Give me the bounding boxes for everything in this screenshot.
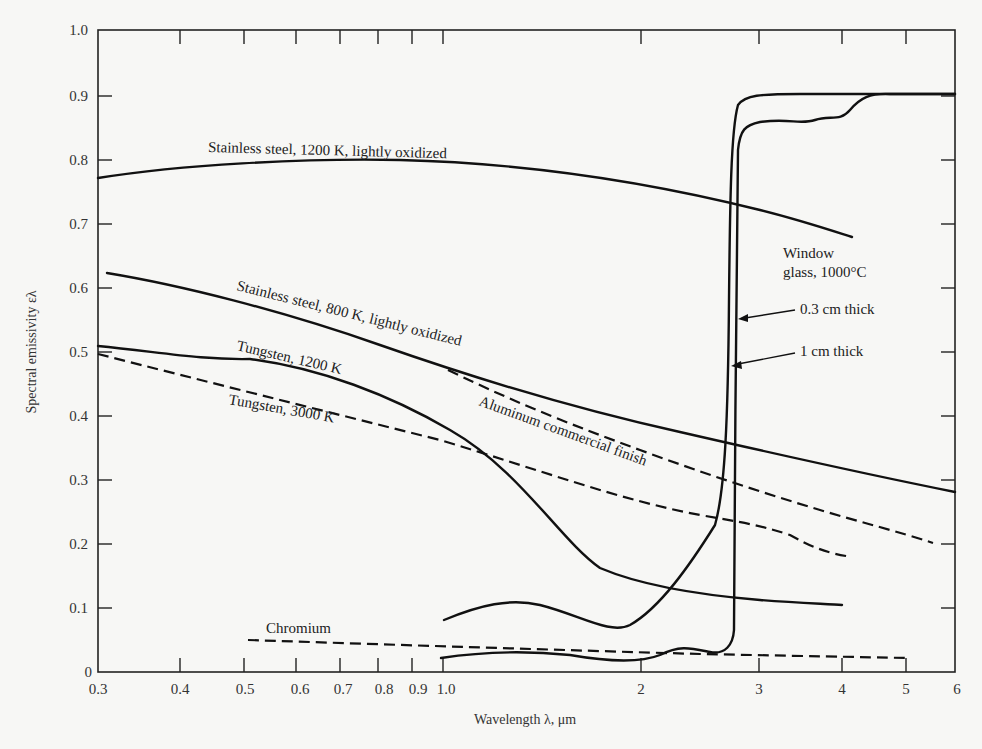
y-label-1.0: 1.0 bbox=[69, 22, 88, 38]
y-label-0.9: 0.9 bbox=[69, 88, 88, 104]
x-label-6: 6 bbox=[953, 681, 961, 697]
y-axis-title: Spectral emissivity ελ bbox=[24, 290, 39, 413]
label-tungsten-1200k: Tungsten, 1200 K bbox=[235, 337, 343, 377]
y-label-0.7: 0.7 bbox=[69, 216, 88, 232]
x-label-3: 3 bbox=[755, 681, 763, 697]
curve-tungsten-1200k bbox=[98, 346, 842, 605]
label-1cm-thick: 1 cm thick bbox=[800, 343, 864, 359]
y-label-0.3: 0.3 bbox=[69, 472, 88, 488]
x-axis-title: Wavelength λ, μm bbox=[474, 712, 576, 727]
y-label-0.5: 0.5 bbox=[69, 344, 88, 360]
curve-glass-0.3cm bbox=[444, 94, 955, 628]
label-aluminum: Aluminum commercial finish bbox=[477, 393, 650, 469]
x-label-1.0: 1.0 bbox=[437, 681, 456, 697]
x-label-0.4: 0.4 bbox=[171, 681, 190, 697]
curve-glass-1cm bbox=[441, 94, 955, 661]
y-tick-labels: 1.0 0.9 0.8 0.7 0.6 0.5 0.4 0.3 0.2 0.1 … bbox=[69, 22, 92, 680]
curve-aluminum bbox=[448, 370, 933, 543]
label-stainless-800k: Stainless steel, 800 K, lightly oxidized bbox=[235, 277, 464, 349]
label-stainless-1200k: Stainless steel, 1200 K, lightly oxidize… bbox=[208, 139, 448, 161]
curve-tungsten-3000k bbox=[98, 354, 852, 557]
x-label-5: 5 bbox=[902, 681, 910, 697]
y-label-0.6: 0.6 bbox=[69, 280, 88, 296]
x-label-0.8: 0.8 bbox=[375, 681, 394, 697]
label-window-glass-line2: glass, 1000°C bbox=[783, 264, 867, 280]
x-label-4: 4 bbox=[838, 681, 846, 697]
label-window-glass-line1: Window bbox=[783, 245, 834, 261]
x-label-0.3: 0.3 bbox=[89, 681, 108, 697]
x-label-0.6: 0.6 bbox=[291, 681, 310, 697]
x-label-0.7: 0.7 bbox=[334, 681, 353, 697]
y-label-0.4: 0.4 bbox=[69, 408, 88, 424]
label-chromium: Chromium bbox=[266, 620, 331, 636]
y-label-0.2: 0.2 bbox=[69, 536, 88, 552]
label-tungsten-3000k: Tungsten, 3000 K bbox=[227, 391, 336, 425]
y-label-0.1: 0.1 bbox=[69, 600, 88, 616]
x-label-0.9: 0.9 bbox=[409, 681, 428, 697]
x-label-2: 2 bbox=[637, 681, 645, 697]
x-tick-labels: 0.3 0.4 0.5 0.6 0.7 0.8 0.9 1.0 2 3 4 5 … bbox=[89, 681, 962, 697]
x-label-0.5: 0.5 bbox=[236, 681, 255, 697]
annotation-arrows bbox=[731, 310, 795, 369]
label-0.3cm-thick: 0.3 cm thick bbox=[800, 301, 875, 317]
y-label-0: 0 bbox=[85, 664, 93, 680]
y-label-0.8: 0.8 bbox=[69, 152, 88, 168]
emissivity-chart: 1.0 0.9 0.8 0.7 0.6 0.5 0.4 0.3 0.2 0.1 … bbox=[0, 0, 982, 749]
arrow-head-icon bbox=[738, 314, 748, 322]
